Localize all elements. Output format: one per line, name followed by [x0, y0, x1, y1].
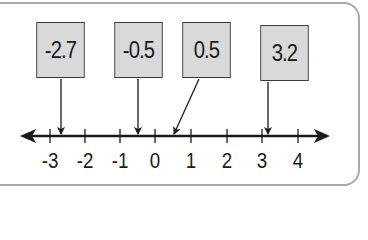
tick-label: 4 — [285, 148, 311, 174]
tick-label: 0 — [142, 148, 168, 174]
pointer-arrows — [61, 79, 268, 134]
tick-label: 3 — [249, 148, 275, 174]
tick-label: -2 — [72, 148, 98, 174]
tick-label: 2 — [214, 148, 240, 174]
tick-label: 1 — [178, 148, 204, 174]
tick-label: -3 — [37, 148, 63, 174]
tick-label: -1 — [107, 148, 133, 174]
pointer-plus-0-5 — [174, 79, 199, 134]
